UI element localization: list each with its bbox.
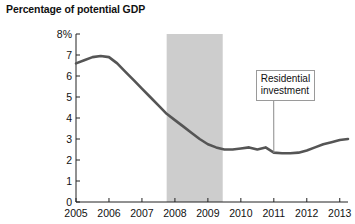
residential-investment-callout: Residential investment [256,70,315,101]
x-tick-label: 2005 [64,207,87,219]
y-tick-label: 6 [38,70,72,82]
x-tick-label: 2006 [97,207,120,219]
x-tick-label: 2009 [196,207,219,219]
y-tick-label: 3 [38,133,72,145]
x-tick-label: 2012 [295,207,318,219]
x-tick-label: 2011 [263,207,286,219]
y-tick-label: 1 [38,175,72,187]
recession-band [167,34,223,202]
y-tick-label: 7 [38,49,72,61]
x-tick-label: 2008 [163,207,186,219]
y-tick-label: 5 [38,91,72,103]
y-tick-label: 8% [38,28,72,40]
y-tick-label: 4 [38,112,72,124]
x-tick-label: 2007 [130,207,153,219]
y-tick-label: 2 [38,154,72,166]
shaded-regions-layer [167,34,223,202]
chart-container: Percentage of potential GDP 012345678% 2… [0,0,355,224]
x-tick-label: 2010 [229,207,252,219]
x-tick-label: 2013 [328,207,351,219]
